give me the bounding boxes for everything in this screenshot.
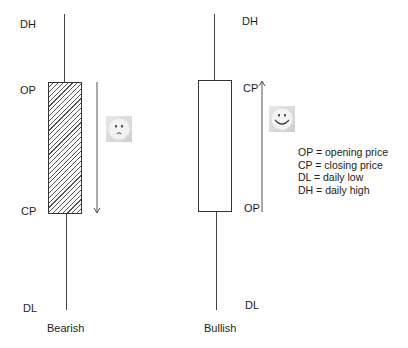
- bearish-cp-label: CP: [21, 205, 36, 217]
- legend-item-cp: CP = closing price: [298, 159, 388, 172]
- bearish-body-hatched: [48, 82, 82, 214]
- up-arrow-icon: [258, 80, 266, 212]
- bullish-dl-label: DL: [245, 299, 259, 311]
- sad-face-icon: [106, 116, 132, 142]
- bullish-title: Bullish: [204, 322, 236, 334]
- bullish-lower-wick: [216, 212, 217, 310]
- abbreviation-legend: OP = opening price CP = closing price DL…: [298, 146, 388, 196]
- bearish-title: Bearish: [47, 322, 84, 334]
- legend-item-dh: DH = daily high: [298, 184, 388, 197]
- bearish-dh-label: DH: [20, 18, 36, 30]
- bearish-upper-wick: [64, 14, 65, 82]
- happy-face-icon: [269, 106, 295, 132]
- bullish-upper-wick: [214, 14, 215, 80]
- bullish-cp-label: CP: [243, 82, 258, 94]
- legend-item-dl: DL = daily low: [298, 171, 388, 184]
- bullish-dh-label: DH: [242, 15, 258, 27]
- legend-item-op: OP = opening price: [298, 146, 388, 159]
- bullish-body-hollow: [198, 80, 232, 212]
- down-arrow-icon: [93, 82, 101, 214]
- bearish-lower-wick: [66, 214, 67, 310]
- bearish-op-label: OP: [20, 84, 36, 96]
- bearish-dl-label: DL: [23, 302, 37, 314]
